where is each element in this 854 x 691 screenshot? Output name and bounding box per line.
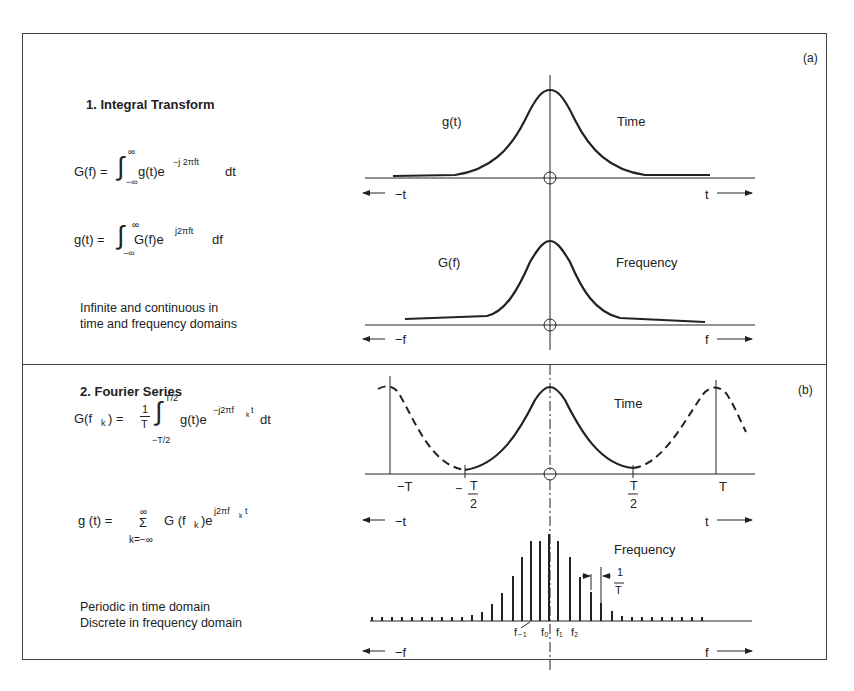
gaussian-time-curve [393,90,710,176]
svg-text:T: T [470,479,478,493]
periodic-left-cycle [378,386,465,470]
periodic-main-cycle [465,387,633,470]
gaussian-freq-curve [405,241,705,322]
half-period-labels: − T 2 T 2 [455,479,638,511]
svg-text:T: T [630,479,638,493]
spectral-lines [372,534,702,621]
svg-text:2: 2 [470,497,477,511]
plots-graphics: − T 2 T 2 [0,0,854,691]
periodic-right-cycle [633,388,746,469]
spacing-indicator [521,567,624,628]
svg-text:2: 2 [630,497,637,511]
neg-half-T-minus: − [455,482,462,496]
